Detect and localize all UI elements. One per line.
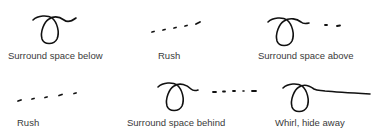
label-rush-2: Rush [17,117,39,128]
label-surround-below: Surround space below [8,50,103,61]
label-surround-behind: Surround space behind [127,117,225,128]
dashes-rising-icon [15,90,80,106]
label-surround-above: Surround space above [258,50,354,61]
loop-with-long-tail-icon [280,81,375,116]
loop-with-tail-dashes-icon [155,80,270,115]
loop-with-tail-dashes-icon [265,14,345,49]
dashes-rising-icon [150,18,210,38]
label-whirl-hide-away: Whirl, hide away [275,117,345,128]
label-rush-1: Rush [158,50,180,61]
loop-with-tail-icon [30,12,80,47]
